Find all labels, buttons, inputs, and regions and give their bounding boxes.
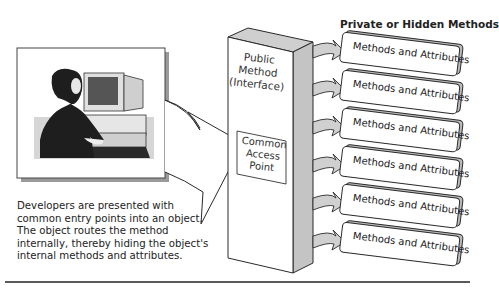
diagram-caption: Developers are presented with common ent… xyxy=(17,200,217,263)
developer-illustration xyxy=(17,48,169,182)
private-methods-header: Private or Hidden Methods xyxy=(340,18,499,30)
routing-arrows xyxy=(313,40,345,250)
public-method-label: Public Method (Interface) xyxy=(226,49,290,94)
common-access-point-label: Common Access Point xyxy=(236,134,289,175)
